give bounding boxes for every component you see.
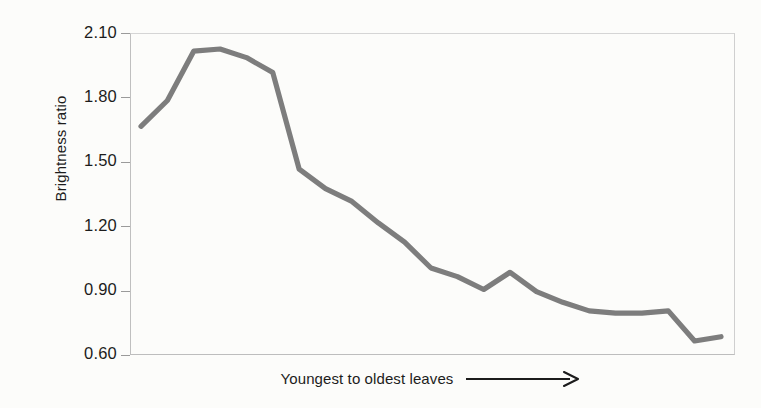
x-axis-caption: Youngest to oldest leaves (130, 370, 735, 387)
y-tick-mark-180 (121, 97, 130, 98)
y-tick-mark-090 (121, 291, 130, 292)
plot-area (130, 33, 735, 355)
y-tick-label-180: 1.80 (57, 87, 117, 106)
x-axis-caption-text: Youngest to oldest leaves (281, 370, 454, 387)
y-tick-label-090: 0.90 (57, 280, 117, 299)
y-tick-label-120: 1.20 (57, 216, 117, 235)
y-tick-mark-120 (121, 226, 130, 227)
chart-figure: Brightness ratio 2.10 1.80 1.50 1.20 0.9… (0, 0, 761, 408)
y-tick-mark-210 (121, 33, 130, 34)
y-tick-label-060: 0.60 (57, 344, 117, 363)
y-tick-mark-060 (121, 355, 130, 356)
y-axis-tick-labels: 2.10 1.80 1.50 1.20 0.90 0.60 (55, 0, 117, 408)
arrow-right-icon (466, 371, 584, 387)
y-tick-mark-150 (121, 162, 130, 163)
y-tick-label-210: 2.10 (57, 23, 117, 42)
data-series-line (131, 34, 736, 356)
y-tick-label-150: 1.50 (57, 151, 117, 170)
